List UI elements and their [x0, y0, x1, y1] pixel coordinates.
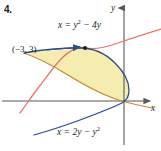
curve-label-upper-suffix: − 4y — [81, 20, 101, 30]
curve-label-lower-exponent: 2 — [97, 125, 100, 132]
curve-label-lower: x = 2y − y2 — [57, 127, 100, 137]
figure-container: 4. — [0, 0, 161, 151]
point-label: (−3, 3) — [12, 44, 37, 54]
x-axis-label: x — [151, 103, 155, 113]
y-axis-label: y — [111, 3, 115, 13]
intersection-point-marker — [83, 46, 87, 50]
curve-label-upper: x = y2 − 4y — [58, 20, 101, 30]
enclosed-region — [25, 48, 129, 101]
curve-label-lower-text: x = 2y − y — [57, 127, 97, 137]
curve-label-upper-text: x = y — [58, 20, 78, 30]
